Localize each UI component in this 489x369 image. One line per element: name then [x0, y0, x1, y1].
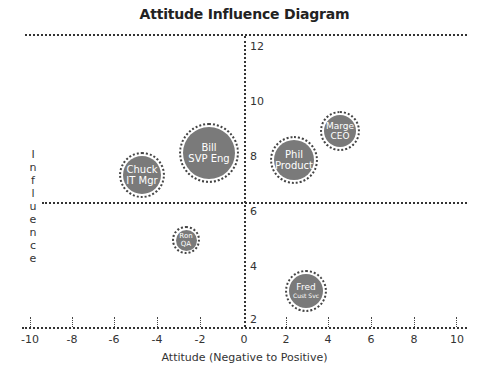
y-axis-title-letter: l: [27, 187, 39, 200]
x-tick-mark: [286, 317, 287, 327]
bubble-bill: Bill SVP Eng: [179, 123, 239, 183]
y-tick-label: 12: [250, 40, 264, 53]
bubble-marge: Marge CEO: [320, 111, 360, 151]
bubble-bill-fill: Bill SVP Eng: [183, 127, 235, 179]
x-tick-label: -4: [142, 333, 172, 346]
x-tick-mark: [371, 317, 372, 327]
x-tick-mark: [200, 317, 201, 327]
bubble-chuck-fill: Chuck IT Mgr: [123, 156, 161, 194]
bubble-name: Chuck: [127, 164, 158, 176]
x-tick-label: -6: [99, 333, 129, 346]
bubble-role: SVP Eng: [188, 153, 229, 165]
bubble-phil: Phil Product: [270, 136, 318, 184]
chart-title: Attitude Influence Diagram: [0, 6, 489, 22]
bubble-phil-fill: Phil Product: [274, 140, 314, 180]
x-axis-title: Attitude (Negative to Positive): [0, 351, 489, 364]
y-axis-title-letter: c: [27, 239, 39, 252]
x-tick-mark: [114, 317, 115, 327]
bubble-name: Marge: [326, 121, 354, 131]
top-border-line: [25, 34, 467, 36]
bubble-name: Phil: [285, 149, 303, 161]
x-tick-label: -10: [15, 333, 45, 346]
x-tick-mark: [157, 317, 158, 327]
bubble-chuck: Chuck IT Mgr: [119, 152, 165, 198]
bubble-ron: Ron QA: [172, 226, 200, 254]
x-tick-label: -8: [57, 333, 87, 346]
bubble-marge-fill: Marge CEO: [324, 115, 356, 147]
y-tick-label: 6: [250, 205, 257, 218]
x-tick-label: 2: [271, 333, 301, 346]
bubble-role: IT Mgr: [126, 175, 157, 187]
x-tick-label: 8: [399, 333, 429, 346]
y-axis-title: I n f l u e n c e: [27, 148, 39, 265]
bubble-role: Product: [275, 160, 313, 172]
x-tick-label: -2: [185, 333, 215, 346]
y-axis-title-letter: I: [27, 148, 39, 161]
y-axis-title-letter: n: [27, 226, 39, 239]
y-axis-title-letter: n: [27, 161, 39, 174]
bubble-name: Ron: [179, 232, 192, 240]
x-tick-mark: [328, 317, 329, 327]
y-tick-label: 8: [250, 150, 257, 163]
bubble-role: QA: [181, 240, 191, 248]
x-tick-label: 10: [442, 333, 472, 346]
x-tick-label: 6: [356, 333, 386, 346]
y-axis-title-letter: u: [27, 200, 39, 213]
y-tick-label: 4: [250, 260, 257, 273]
bubble-name: Bill: [201, 142, 216, 154]
bubble-role: Cust Svc: [293, 293, 319, 300]
bubble-fred-fill: Fred Cust Svc: [289, 274, 323, 308]
x-axis-line: [22, 327, 467, 329]
x-tick-label: 4: [313, 333, 343, 346]
y-axis-title-letter: e: [27, 213, 39, 226]
y-axis-title-letter: f: [27, 174, 39, 187]
x-tick-mark: [414, 317, 415, 327]
x-tick-mark: [72, 317, 73, 327]
bubble-fred: Fred Cust Svc: [285, 270, 327, 312]
x-tick-mark: [456, 317, 457, 327]
x-tick-mark: [30, 317, 31, 327]
x-tick-label: 0: [229, 333, 259, 346]
y-axis-title-letter: e: [27, 252, 39, 265]
bubble-ron-fill: Ron QA: [176, 230, 197, 251]
horizontal-quadrant-line: [42, 202, 467, 204]
vertical-quadrant-line: [244, 36, 246, 327]
y-tick-label: 10: [250, 95, 264, 108]
bubble-role: CEO: [330, 131, 349, 141]
y-tick-label: 2: [250, 313, 257, 326]
